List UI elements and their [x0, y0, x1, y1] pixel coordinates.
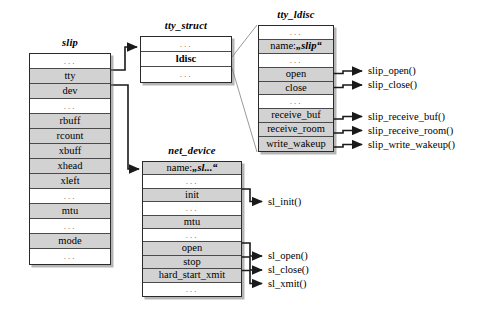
callout-arrows-netdev	[0, 0, 482, 324]
diagram-canvas: slip ...ttydev...rbuffrcountxbuffxheadxl…	[0, 0, 482, 324]
arrow-netdev-open	[242, 243, 262, 256]
arrow-netdev-xmit	[242, 271, 262, 284]
arrow-netdev-stop	[242, 257, 262, 270]
arrow-netdev-init	[242, 189, 262, 202]
